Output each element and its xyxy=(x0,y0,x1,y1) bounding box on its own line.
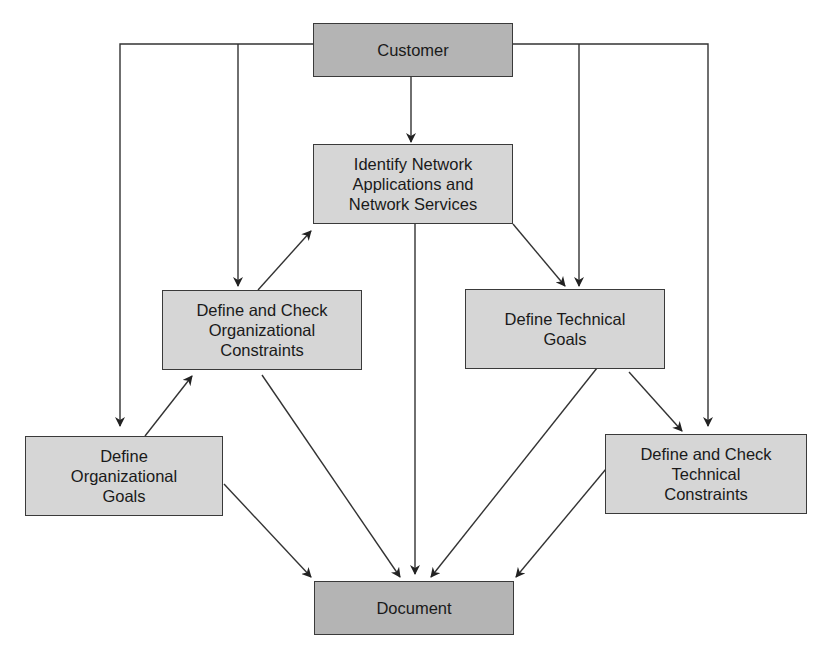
node-label: Define Organizational Goals xyxy=(71,446,177,506)
edge-identify-to-tech-goals xyxy=(513,224,565,286)
node-label: Define and Check Technical Constraints xyxy=(640,444,771,504)
edge-org-goals-to-org-constraints xyxy=(145,376,192,436)
node-label: Customer xyxy=(377,40,449,60)
node-define-organizational-goals: Define Organizational Goals xyxy=(25,436,223,516)
node-label: Document xyxy=(376,598,451,618)
node-document: Document xyxy=(314,581,514,635)
node-label: Define Technical Goals xyxy=(505,309,626,349)
node-identify-network-applications: Identify Network Applications and Networ… xyxy=(313,144,513,224)
edge-org-goals-to-document xyxy=(224,484,311,577)
node-customer: Customer xyxy=(313,23,513,77)
edge-tech-goals-to-document xyxy=(431,368,597,577)
node-label: Identify Network Applications and Networ… xyxy=(349,154,477,214)
node-define-check-organizational-constraints: Define and Check Organizational Constrai… xyxy=(162,290,362,370)
node-define-technical-goals: Define Technical Goals xyxy=(465,289,665,369)
edge-tech-constraints-to-document xyxy=(516,469,606,577)
node-define-check-technical-constraints: Define and Check Technical Constraints xyxy=(605,434,807,514)
connector-lines xyxy=(0,0,830,656)
edge-tech-goals-to-tech-constraints xyxy=(629,372,682,431)
node-label: Define and Check Organizational Constrai… xyxy=(196,300,327,360)
edge-org-constraints-to-identify xyxy=(258,231,311,290)
